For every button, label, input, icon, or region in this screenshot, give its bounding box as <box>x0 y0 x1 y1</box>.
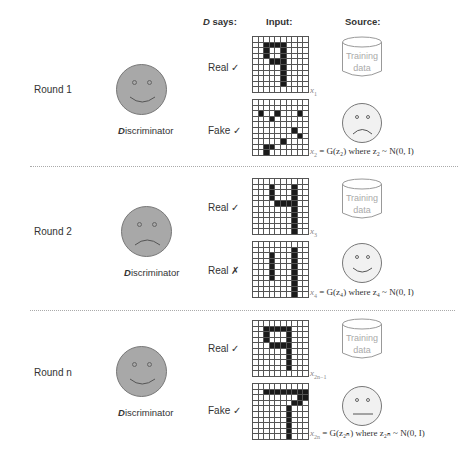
pixel-cell <box>259 406 264 411</box>
pixel-cell <box>303 59 308 64</box>
pixel-cell <box>275 87 280 92</box>
pixel-cell <box>264 281 269 286</box>
pixel-cell <box>303 185 308 190</box>
pixel-cell <box>281 37 286 42</box>
pixel-cell <box>253 37 258 42</box>
pixel-cell <box>259 100 264 105</box>
pixel-cell <box>253 54 258 59</box>
pixel-cell <box>298 423 303 428</box>
pixel-cell <box>303 343 308 348</box>
pixel-cell <box>253 259 258 264</box>
pixel-cell <box>275 207 280 212</box>
generator-face-neutral-icon <box>342 386 382 426</box>
pixel-cell <box>281 384 286 389</box>
pixel-cell <box>281 213 286 218</box>
pixel-cell <box>298 134 303 139</box>
neutral-mouth-icon <box>343 387 383 427</box>
pixel-cell <box>253 229 258 234</box>
pixel-cell <box>275 292 280 297</box>
pixel-cell <box>298 292 303 297</box>
pixel-cell <box>270 139 275 144</box>
pixel-cell <box>292 229 297 234</box>
pixel-cell <box>253 150 258 155</box>
pixel-cell <box>264 48 269 53</box>
pixel-cell <box>303 134 308 139</box>
pixel-cell <box>270 259 275 264</box>
pixel-cell <box>298 122 303 127</box>
pixel-cell <box>281 122 286 127</box>
pixel-cell <box>303 128 308 133</box>
pixel-cell <box>303 292 308 297</box>
pixel-cell <box>292 412 297 417</box>
pixel-cell <box>275 401 280 406</box>
pixel-cell <box>264 201 269 206</box>
pixel-cell <box>298 117 303 122</box>
pixel-cell <box>292 270 297 275</box>
pixel-cell <box>270 65 275 70</box>
pixel-cell <box>298 59 303 64</box>
header-source: Source: <box>345 16 380 27</box>
pixel-cell <box>275 412 280 417</box>
pixel-cell <box>253 196 258 201</box>
pixel-cell <box>264 100 269 105</box>
pixel-cell <box>264 106 269 111</box>
pixel-cell <box>264 321 269 326</box>
pixel-cell <box>292 343 297 348</box>
pixel-cell <box>259 281 264 286</box>
pixel-cell <box>270 327 275 332</box>
pixel-cell <box>281 59 286 64</box>
pixel-cell <box>287 434 292 439</box>
pixel-cell <box>287 122 292 127</box>
smile-icon <box>343 244 383 284</box>
pixel-cell <box>292 418 297 423</box>
pixel-cell <box>253 360 258 365</box>
pixel-cell <box>281 406 286 411</box>
pixel-cell <box>275 276 280 281</box>
pixel-cell <box>259 321 264 326</box>
pixel-cell <box>270 48 275 53</box>
pixel-cell <box>281 218 286 223</box>
pixel-cell <box>287 100 292 105</box>
pixel-cell <box>259 242 264 247</box>
pixel-cell <box>275 259 280 264</box>
pixel-cell <box>281 224 286 229</box>
pixel-cell <box>298 185 303 190</box>
pixel-cell <box>298 259 303 264</box>
pixel-cell <box>264 287 269 292</box>
pixel-cell <box>270 270 275 275</box>
pixel-cell <box>275 390 280 395</box>
pixel-cell <box>270 401 275 406</box>
pixel-cell <box>281 111 286 116</box>
pixel-cell <box>281 43 286 48</box>
round-2-label: Round 2 <box>34 226 72 237</box>
pixel-cell <box>287 423 292 428</box>
pixel-cell <box>287 190 292 195</box>
pixel-cell <box>298 145 303 150</box>
pixel-cell <box>292 366 297 371</box>
pixel-cell <box>281 145 286 150</box>
pixel-cell <box>253 343 258 348</box>
pixel-cell <box>303 253 308 258</box>
pixel-cell <box>292 48 297 53</box>
pixel-cell <box>270 54 275 59</box>
pixel-cell <box>281 401 286 406</box>
pixel-cell <box>259 401 264 406</box>
pixel-cell <box>270 190 275 195</box>
pixel-cell <box>264 332 269 337</box>
pixel-cell <box>298 287 303 292</box>
smile-icon <box>117 65 168 116</box>
pixel-cell <box>253 87 258 92</box>
pixel-cell <box>298 229 303 234</box>
pixel-cell <box>287 213 292 218</box>
pixel-cell <box>275 418 280 423</box>
pixel-cell <box>275 332 280 337</box>
pixel-cell <box>287 355 292 360</box>
pixel-cell <box>292 179 297 184</box>
pixel-cell <box>259 218 264 223</box>
pixel-cell <box>281 117 286 122</box>
input-caption: x1 <box>310 85 317 97</box>
pixel-cell <box>259 248 264 253</box>
pixel-cell <box>259 384 264 389</box>
pixel-cell <box>292 213 297 218</box>
pixel-cell <box>281 150 286 155</box>
